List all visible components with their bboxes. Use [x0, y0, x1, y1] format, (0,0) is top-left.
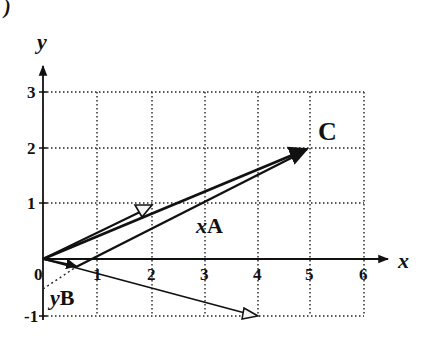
x-tick-4: 4: [253, 265, 262, 284]
vector-xA-label: xA: [195, 213, 223, 238]
x-tick-6: 6: [359, 265, 368, 284]
vector-xA: [43, 149, 307, 259]
yB-scalar: y: [47, 285, 60, 310]
yB-vector: B: [60, 285, 75, 310]
point-C-label: C: [318, 117, 337, 146]
x-tick-0: 0: [34, 265, 43, 284]
vector-B-hollow-head: [242, 308, 258, 319]
vector-xA-shifted: [76, 152, 303, 267]
xA-vector: A: [207, 213, 223, 238]
y-tick-1: 1: [27, 194, 36, 213]
xA-scalar: x: [195, 213, 207, 238]
y-tick-neg1: -1: [24, 307, 38, 326]
y-axis-label: y: [34, 29, 47, 54]
corner-mark: ): [2, 0, 11, 19]
vector-diagram: ) y x 0 1 2 3 4 5 6 -1 1 2 3: [0, 0, 423, 337]
vector-yB: [43, 259, 76, 266]
y-tick-3: 3: [27, 83, 36, 102]
x-axis-label: x: [397, 248, 409, 273]
x-tick-2: 2: [147, 265, 156, 284]
vector-A: [43, 212, 140, 259]
x-tick-5: 5: [305, 265, 314, 284]
vector-yB-label: yB: [47, 285, 75, 310]
x-tick-3: 3: [200, 265, 209, 284]
y-tick-2: 2: [27, 139, 36, 158]
